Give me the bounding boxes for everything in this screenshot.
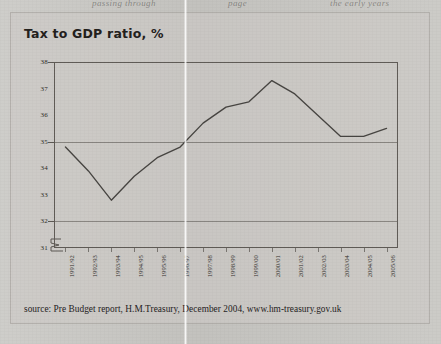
bleed-text-middle: page <box>228 0 247 8</box>
chart-title: Tax to GDP ratio, % <box>24 26 164 41</box>
page-bleed-through-text: passing through page the early years <box>0 0 441 10</box>
plot-area: 3132333435363738 1991/921992/931993/9419… <box>28 56 414 308</box>
source-note: source: Pre Budget report, H.M.Treasury,… <box>24 304 341 314</box>
data-series-line <box>28 56 414 308</box>
figure-panel: Tax to GDP ratio, % 3132333435363738 199… <box>10 12 430 324</box>
scanned-page: passing through page the early years Tax… <box>0 0 441 344</box>
bleed-text-right: the early years <box>330 0 389 8</box>
bleed-text-left: passing through <box>92 0 156 8</box>
